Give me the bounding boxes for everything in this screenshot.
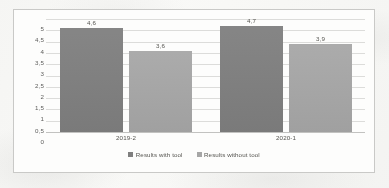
legend-swatch-icon bbox=[128, 152, 133, 157]
gridline bbox=[46, 132, 365, 133]
y-axis-tick-label: 0,5 bbox=[18, 126, 44, 133]
chart-frame: 54,543,532,521,510,50 4,63,64,73,9 2019-… bbox=[13, 9, 375, 173]
data-label: 4,6 bbox=[60, 19, 123, 26]
y-axis-tick-label: 5 bbox=[18, 25, 44, 32]
legend-label: Results with tool bbox=[136, 151, 183, 158]
scanned-page-background: 54,543,532,521,510,50 4,63,64,73,9 2019-… bbox=[0, 0, 389, 188]
y-axis-tick-label: 2 bbox=[18, 92, 44, 99]
y-axis: 54,543,532,521,510,50 bbox=[14, 19, 44, 132]
y-axis-tick-label: 4,5 bbox=[18, 36, 44, 43]
legend-entry-1[interactable]: Results without tool bbox=[197, 151, 260, 158]
y-axis-tick-label: 3,5 bbox=[18, 58, 44, 65]
bar-2019-2-series-0 bbox=[60, 28, 123, 132]
x-axis: 2019-22020-1 bbox=[46, 134, 365, 146]
plot-area: 4,63,64,73,9 bbox=[46, 19, 365, 132]
bar-2019-2-series-1 bbox=[129, 51, 192, 132]
data-label: 3,9 bbox=[289, 35, 352, 42]
bar-2020-1-series-1 bbox=[289, 44, 352, 132]
legend-entry-0[interactable]: Results with tool bbox=[128, 151, 182, 158]
chart-legend: Results with toolResults without tool bbox=[14, 151, 374, 158]
x-axis-tick-label: 2019-2 bbox=[46, 134, 206, 142]
x-axis-tick-label: 2020-1 bbox=[206, 134, 366, 142]
legend-swatch-icon bbox=[197, 152, 202, 157]
legend-label: Results without tool bbox=[204, 151, 260, 158]
y-axis-tick-label: 0 bbox=[18, 138, 44, 145]
data-label: 3,6 bbox=[129, 42, 192, 49]
bar-2020-1-series-0 bbox=[220, 26, 283, 132]
data-label: 4,7 bbox=[220, 17, 283, 24]
y-axis-tick-label: 3 bbox=[18, 70, 44, 77]
y-axis-tick-label: 2,5 bbox=[18, 81, 44, 88]
y-axis-tick-label: 1,5 bbox=[18, 104, 44, 111]
y-axis-tick-label: 1 bbox=[18, 115, 44, 122]
y-axis-tick-label: 4 bbox=[18, 47, 44, 54]
